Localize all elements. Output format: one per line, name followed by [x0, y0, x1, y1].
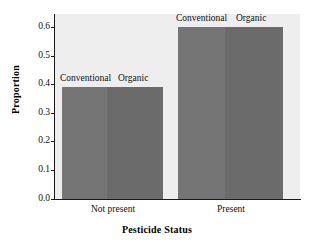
y-tick-label-6: 0.6	[24, 22, 50, 32]
y-tick-mark-0	[51, 199, 54, 200]
y-tick-mark-3	[51, 113, 54, 114]
x-axis-line	[54, 199, 301, 200]
y-tick-mark-1	[51, 170, 54, 171]
y-tick-label-2: 0.2	[24, 136, 50, 146]
y-tick-label-1: 0.1	[24, 165, 50, 175]
x-axis-title: Pesticide Status	[0, 224, 314, 235]
bar-not-present-organic	[107, 87, 163, 199]
bar-label-not-present-conventional: Conventional	[60, 74, 111, 84]
bar-chart: Proportion 0.0 0.1 0.2 0.3 0.4 0.5 0.6 C…	[0, 0, 314, 240]
y-axis-ticks: 0.0 0.1 0.2 0.3 0.4 0.5 0.6	[20, 0, 50, 240]
y-tick-label-0: 0.0	[24, 194, 50, 204]
y-axis-title: Proportion	[10, 45, 21, 135]
y-tick-label-3: 0.3	[24, 108, 50, 118]
y-tick-label-4: 0.4	[24, 79, 50, 89]
y-tick-label-5: 0.5	[24, 51, 50, 61]
bar-present-organic	[225, 27, 283, 199]
bar-present-conventional	[178, 27, 225, 199]
bar-not-present-conventional	[62, 87, 107, 199]
y-tick-mark-6	[51, 27, 54, 28]
bar-label-not-present-organic: Organic	[118, 74, 148, 84]
x-category-label-present: Present	[192, 205, 270, 215]
x-category-label-not-present: Not present	[72, 205, 154, 215]
bar-label-present-organic: Organic	[236, 14, 266, 24]
y-tick-mark-5	[51, 56, 54, 57]
bar-label-present-conventional: Conventional	[176, 14, 227, 24]
y-tick-mark-4	[51, 84, 54, 85]
y-tick-mark-2	[51, 141, 54, 142]
